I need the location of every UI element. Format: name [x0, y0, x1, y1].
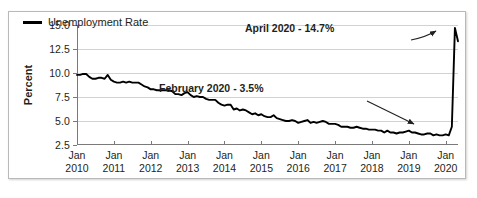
legend: Unemployment Rate [23, 16, 148, 28]
x-tick-2012 [151, 141, 152, 145]
y-tick-2.5 [73, 145, 77, 146]
annotation-arrows [77, 25, 458, 145]
y-tick-label-12.5: 12.5 [49, 43, 70, 55]
x-tick-2011 [114, 141, 115, 145]
annotation-april-2020: April 2020 - 14.7% [245, 22, 334, 34]
x-tick-year: 2015 [250, 162, 273, 174]
x-tick-month: Jan [437, 149, 454, 161]
y-tick-5.0 [73, 121, 77, 122]
gridline-10.0 [77, 73, 458, 74]
x-tick-month: Jan [327, 149, 344, 161]
y-tick-label-5.0: 5.0 [55, 115, 70, 127]
x-tick-2017 [335, 141, 336, 145]
x-tick-year: 2014 [213, 162, 236, 174]
x-tick-2020 [446, 141, 447, 145]
x-tick-year: 2018 [360, 162, 383, 174]
x-tick-year: 2011 [103, 162, 126, 174]
x-tick-2015 [261, 141, 262, 145]
x-tick-label-2014: Jan2014 [213, 149, 236, 174]
x-tick-year: 2010 [65, 162, 88, 174]
x-tick-label-2020: Jan2020 [434, 149, 457, 174]
x-tick-label-2015: Jan2015 [250, 149, 273, 174]
x-tick-month: Jan [105, 149, 122, 161]
plot-area: 2.55.07.510.012.515.0 Jan2010Jan2011Jan2… [77, 25, 458, 145]
x-tick-label-2017: Jan2017 [323, 149, 346, 174]
x-tick-month: Jan [253, 149, 270, 161]
annotation-february-2020: February 2020 - 3.5% [159, 82, 263, 94]
y-tick-10.0 [73, 73, 77, 74]
x-tick-label-2018: Jan2018 [360, 149, 383, 174]
x-tick-month: Jan [142, 149, 159, 161]
x-tick-label-2013: Jan2013 [176, 149, 199, 174]
x-tick-label-2019: Jan2019 [397, 149, 420, 174]
y-tick-12.5 [73, 49, 77, 50]
x-tick-2013 [188, 141, 189, 145]
x-tick-label-2016: Jan2016 [287, 149, 310, 174]
x-tick-label-2010: Jan2010 [65, 149, 88, 174]
x-tick-2014 [224, 141, 225, 145]
x-tick-month: Jan [216, 149, 233, 161]
gridline-7.5 [77, 97, 458, 98]
y-tick-label-7.5: 7.5 [55, 91, 70, 103]
y-axis-title-label: Percent [22, 65, 34, 105]
y-axis-title: Percent [21, 25, 35, 145]
x-tick-2018 [372, 141, 373, 145]
arrow-april [411, 31, 436, 40]
gridline-5.0 [77, 121, 458, 122]
gridline-12.5 [77, 49, 458, 50]
chart-figure: Percent 2.55.07.510.012.515.0 Jan2010Jan… [8, 11, 466, 179]
x-tick-2016 [298, 141, 299, 145]
legend-label-unemployment-rate: Unemployment Rate [48, 16, 148, 28]
x-axis-line [77, 144, 458, 145]
y-tick-7.5 [73, 97, 77, 98]
x-tick-2019 [409, 141, 410, 145]
x-tick-2010 [77, 141, 78, 145]
x-tick-year: 2016 [287, 162, 310, 174]
x-tick-label-2011: Jan2011 [103, 149, 126, 174]
x-tick-year: 2020 [434, 162, 457, 174]
x-tick-year: 2019 [397, 162, 420, 174]
x-tick-month: Jan [69, 149, 86, 161]
x-tick-year: 2017 [323, 162, 346, 174]
x-tick-label-2012: Jan2012 [139, 149, 162, 174]
x-tick-year: 2013 [176, 162, 199, 174]
x-tick-month: Jan [363, 149, 380, 161]
series-unemployment-rate [77, 25, 458, 145]
x-tick-year: 2012 [139, 162, 162, 174]
legend-swatch-unemployment-rate [23, 21, 42, 24]
y-axis-line [77, 25, 78, 145]
x-tick-month: Jan [400, 149, 417, 161]
x-tick-month: Jan [290, 149, 307, 161]
x-tick-month: Jan [179, 149, 196, 161]
y-tick-label-10.0: 10.0 [49, 67, 70, 79]
